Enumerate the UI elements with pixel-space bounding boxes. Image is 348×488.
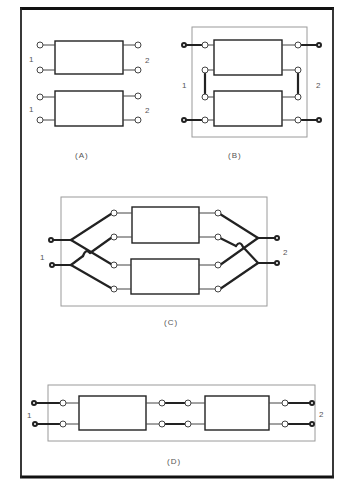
panel-b: 1 2 (B) bbox=[182, 27, 321, 160]
port-terminal-icon bbox=[317, 43, 321, 47]
two-port-box bbox=[55, 41, 123, 74]
terminal-icon bbox=[295, 42, 301, 48]
terminal-icon bbox=[37, 117, 43, 123]
port-1-label: 1 bbox=[182, 81, 187, 90]
two-port-box bbox=[214, 91, 282, 126]
panel-a-network-1: 1 2 bbox=[29, 41, 150, 74]
port-terminal-icon bbox=[317, 118, 321, 122]
terminal-icon bbox=[282, 400, 288, 406]
port-2-label: 2 bbox=[319, 410, 324, 419]
terminal-icon bbox=[185, 400, 191, 406]
port-1-label: 1 bbox=[29, 105, 34, 114]
terminal-icon bbox=[60, 400, 66, 406]
port-1-label: 1 bbox=[29, 55, 34, 64]
terminal-icon bbox=[215, 210, 221, 216]
panel-c: 1 2 (C) bbox=[40, 197, 288, 327]
terminal-icon bbox=[111, 286, 117, 292]
port-terminal-icon bbox=[182, 118, 186, 122]
terminal-icon bbox=[185, 421, 191, 427]
panel-c-caption: (C) bbox=[164, 318, 178, 327]
panel-a-network-2: 1 2 bbox=[29, 91, 150, 126]
port-terminal-icon bbox=[310, 422, 314, 426]
terminal-icon bbox=[215, 286, 221, 292]
terminal-icon bbox=[295, 67, 301, 73]
terminal-icon bbox=[60, 421, 66, 427]
terminal-icon bbox=[215, 234, 221, 240]
figure-canvas: 1 2 1 2 (A) bbox=[0, 0, 348, 488]
terminal-icon bbox=[282, 421, 288, 427]
port-2-label: 2 bbox=[283, 248, 288, 257]
panel-d: 1 2 (D) bbox=[27, 385, 324, 466]
port-terminal-icon bbox=[33, 422, 37, 426]
panel-a: 1 2 1 2 (A) bbox=[29, 41, 150, 160]
terminal-icon bbox=[202, 67, 208, 73]
port-terminal-icon bbox=[50, 263, 54, 267]
port-terminal-icon bbox=[32, 401, 36, 405]
port-terminal-icon bbox=[49, 238, 53, 242]
terminal-icon bbox=[37, 94, 43, 100]
terminal-icon bbox=[111, 262, 117, 268]
port-1-label: 1 bbox=[27, 411, 32, 420]
port-1-label: 1 bbox=[40, 253, 45, 262]
terminal-icon bbox=[202, 42, 208, 48]
port-2-label: 2 bbox=[145, 106, 150, 115]
terminal-icon bbox=[37, 42, 43, 48]
two-port-box bbox=[55, 91, 123, 126]
port-terminal-icon bbox=[275, 236, 279, 240]
two-port-box bbox=[214, 40, 282, 75]
terminal-icon bbox=[215, 262, 221, 268]
port-2-label: 2 bbox=[316, 81, 321, 90]
terminal-icon bbox=[135, 93, 141, 99]
terminal-icon bbox=[159, 400, 165, 406]
terminal-icon bbox=[111, 210, 117, 216]
terminal-icon bbox=[135, 117, 141, 123]
panel-d-caption: (D) bbox=[167, 457, 181, 466]
terminal-icon bbox=[37, 67, 43, 73]
panel-b-caption: (B) bbox=[228, 151, 242, 160]
terminal-icon bbox=[295, 117, 301, 123]
two-port-box bbox=[205, 396, 269, 430]
two-port-box bbox=[132, 207, 199, 243]
two-port-box bbox=[131, 259, 199, 294]
terminal-icon bbox=[111, 234, 117, 240]
port-terminal-icon bbox=[275, 261, 279, 265]
panel-a-caption: (A) bbox=[75, 151, 89, 160]
terminal-icon bbox=[159, 421, 165, 427]
terminal-icon bbox=[202, 117, 208, 123]
port-2-label: 2 bbox=[145, 56, 150, 65]
terminal-icon bbox=[295, 94, 301, 100]
terminal-icon bbox=[202, 94, 208, 100]
terminal-icon bbox=[135, 67, 141, 73]
port-terminal-icon bbox=[310, 401, 314, 405]
two-port-box bbox=[79, 396, 146, 430]
port-terminal-icon bbox=[182, 43, 186, 47]
terminal-icon bbox=[135, 42, 141, 48]
